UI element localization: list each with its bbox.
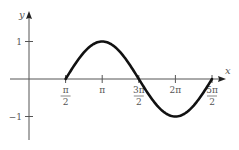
x-tick-label: 2π [170,85,182,95]
y-axis-label: y [18,9,25,20]
y-tick-label: 1 [16,37,22,47]
x-axis-arrow-icon [218,76,226,82]
y-tick-label: −1 [9,112,22,122]
y-axis-arrow-icon [26,11,32,19]
x-tick-label: π [99,85,105,95]
x-axis-label: x [225,65,231,76]
x-tick-label-denominator: 2 [63,97,69,107]
chart: π2π3π22π5π21−1 x y [0,0,239,150]
x-tick-label-numerator: π [63,85,69,95]
axes [10,11,226,140]
x-tick-label-denominator: 2 [136,97,142,107]
x-tick-label-denominator: 2 [209,97,215,107]
